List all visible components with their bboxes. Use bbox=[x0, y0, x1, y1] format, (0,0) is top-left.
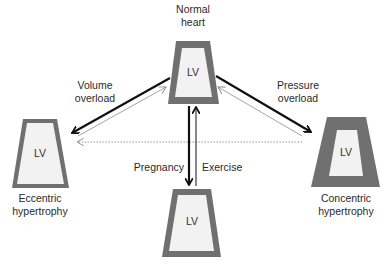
eccentric-label-line2: hypertrophy bbox=[5, 205, 75, 218]
concentric-label: Concentric hypertrophy bbox=[308, 192, 384, 218]
eccentric-label: Eccentric hypertrophy bbox=[5, 192, 75, 218]
volume-overload-line2: overload bbox=[65, 92, 125, 105]
concentric-label-line1: Concentric bbox=[308, 192, 384, 205]
pressure-overload-line1: Pressure bbox=[265, 79, 331, 92]
normal-heart-label-line1: Normal bbox=[163, 3, 223, 16]
normal-lv-label: LV bbox=[181, 66, 205, 78]
volume-overload-line1: Volume bbox=[65, 79, 125, 92]
diagram-canvas bbox=[0, 0, 390, 268]
eccentric-lv-label: LV bbox=[28, 147, 52, 159]
concentric-lv-label: LV bbox=[334, 146, 358, 158]
normal-heart-label-line2: heart bbox=[163, 16, 223, 29]
normal-heart-label: Normal heart bbox=[163, 3, 223, 29]
concentric-label-line2: hypertrophy bbox=[308, 205, 384, 218]
volume-overload-label: Volume overload bbox=[65, 79, 125, 105]
eccentric-label-line1: Eccentric bbox=[5, 192, 75, 205]
pressure-overload-line2: overload bbox=[265, 92, 331, 105]
exercise-label: Exercise bbox=[202, 161, 252, 174]
physiologic-lv-label: LV bbox=[180, 215, 204, 227]
pregnancy-label: Pregnancy bbox=[130, 161, 184, 174]
pressure-overload-label: Pressure overload bbox=[265, 79, 331, 105]
